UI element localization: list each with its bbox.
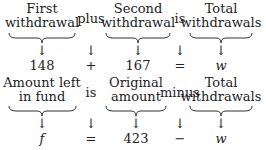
operator-equals: = [175, 59, 186, 73]
value-167: 167 [126, 59, 151, 73]
down-arrow-icon: ↓ [37, 117, 48, 131]
operator-minus: − [175, 132, 186, 146]
brace-total-withdrawals-2 [190, 106, 252, 116]
label-line: First [5, 2, 79, 16]
down-arrow-icon: ↓ [86, 117, 97, 131]
down-arrow-icon: ↓ [175, 117, 186, 131]
label-line: Total [181, 2, 262, 16]
down-arrow-icon: ↓ [216, 117, 227, 131]
brace-total-withdrawals-1 [190, 33, 252, 43]
label-line: withdrawals [181, 90, 262, 104]
label-second-withdrawal: Second withdrawal [101, 2, 175, 30]
label-line: withdrawals [181, 16, 262, 30]
down-arrow-icon: ↓ [133, 44, 144, 58]
label-first-withdrawal: First withdrawal [5, 2, 79, 30]
down-arrow-icon: ↓ [216, 44, 227, 58]
variable-f: f [40, 132, 45, 146]
brace-second-withdrawal [106, 33, 170, 43]
down-arrow-icon: ↓ [37, 44, 48, 58]
down-arrow-icon: ↓ [175, 44, 186, 58]
value-423: 423 [124, 132, 149, 146]
label-line: withdrawal [5, 16, 79, 30]
label-line: Original [109, 76, 163, 90]
operator-equals: = [86, 132, 97, 146]
value-148: 148 [30, 59, 55, 73]
label-line: amount [109, 90, 163, 104]
label-line: withdrawal [101, 16, 175, 30]
down-arrow-icon: ↓ [86, 44, 97, 58]
label-is: is [86, 86, 97, 100]
label-line: Amount left [3, 76, 81, 90]
label-total-withdrawals: Total withdrawals [181, 76, 262, 104]
label-original-amount: Original amount [109, 76, 163, 104]
label-amount-left-in-fund: Amount left in fund [3, 76, 81, 104]
brace-original-amount [106, 106, 166, 116]
brace-first-withdrawal [9, 33, 75, 43]
variable-w: w [215, 59, 226, 73]
brace-amount-left [9, 106, 76, 116]
operator-plus: + [86, 59, 97, 73]
label-line: Total [181, 76, 262, 90]
variable-w: w [215, 132, 226, 146]
label-line: Second [101, 2, 175, 16]
label-line: in fund [3, 90, 81, 104]
label-total-withdrawals: Total withdrawals [181, 2, 262, 30]
down-arrow-icon: ↓ [131, 117, 142, 131]
